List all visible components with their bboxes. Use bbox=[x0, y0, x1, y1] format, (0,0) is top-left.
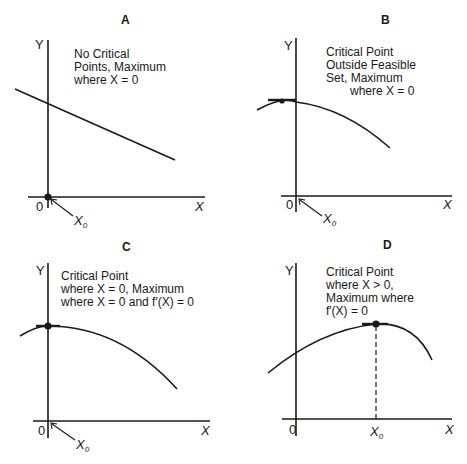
panel-c-maximum-point bbox=[45, 323, 51, 329]
panel-c-x0-arrow bbox=[52, 424, 75, 440]
panel-a-maximum-point bbox=[45, 194, 51, 200]
x0-symbol: X bbox=[370, 424, 379, 439]
panel-d-caption-line: f′(X) = 0 bbox=[326, 305, 414, 318]
panel-b-x-label: X bbox=[443, 197, 452, 212]
panel-b-critical-point bbox=[280, 99, 284, 103]
panel-b-function-curve bbox=[257, 100, 390, 148]
panel-a-title: A bbox=[121, 13, 130, 27]
panel-b-caption: Critical Point Outside Feasible Set, Max… bbox=[326, 46, 416, 98]
panel-b-x0-arrow bbox=[300, 200, 322, 216]
panel-a-x0-label: X0 bbox=[74, 213, 87, 228]
panel-c-title: C bbox=[122, 240, 131, 254]
panel-c-function-curve bbox=[20, 326, 177, 389]
panel-d-y-label: Y bbox=[285, 263, 294, 278]
panel-b-x0-label: X0 bbox=[323, 211, 336, 226]
panel-b-caption-line: where X = 0 bbox=[326, 85, 416, 98]
panel-a-x0-arrow bbox=[52, 200, 73, 216]
x0-subscript: 0 bbox=[85, 445, 89, 454]
panel-a-function-line bbox=[15, 89, 175, 160]
panel-a-caption-line: where X = 0 bbox=[74, 74, 166, 87]
x0-subscript: 0 bbox=[379, 432, 383, 441]
x0-symbol: X bbox=[74, 213, 83, 228]
panel-d-origin-label: 0 bbox=[289, 422, 296, 437]
panel-c-x-label: X bbox=[201, 423, 210, 438]
panel-d-x0-label: X0 bbox=[370, 424, 383, 439]
panel-d-maximum-point bbox=[373, 321, 379, 327]
panel-a-origin-label: 0 bbox=[36, 199, 43, 214]
x0-subscript: 0 bbox=[83, 221, 87, 230]
panel-c-y-label: Y bbox=[36, 263, 45, 278]
panel-b-origin-label: 0 bbox=[286, 197, 293, 212]
panel-b-title: B bbox=[381, 13, 390, 27]
panel-c-x0-label: X0 bbox=[76, 437, 89, 452]
panel-d-function-curve bbox=[268, 324, 432, 373]
panel-d-x-label: X bbox=[445, 422, 454, 437]
panel-b-y-label: Y bbox=[284, 38, 293, 53]
panel-d-caption: Critical Point where X > 0, Maximum wher… bbox=[326, 266, 414, 318]
panel-a-y-label: Y bbox=[35, 37, 44, 52]
panel-a-caption: No Critical Points, Maximum where X = 0 bbox=[74, 48, 166, 87]
panel-c-origin-label: 0 bbox=[38, 423, 45, 438]
panel-c-caption: Critical Point where X = 0, Maximum wher… bbox=[61, 270, 194, 309]
x0-symbol: X bbox=[323, 211, 332, 226]
panel-c-caption-line: where X = 0 and f′(X) = 0 bbox=[61, 296, 194, 309]
panel-d-title: D bbox=[383, 238, 392, 252]
x0-symbol: X bbox=[76, 437, 85, 452]
x0-subscript: 0 bbox=[332, 219, 336, 228]
panel-a-x-label: X bbox=[195, 199, 204, 214]
